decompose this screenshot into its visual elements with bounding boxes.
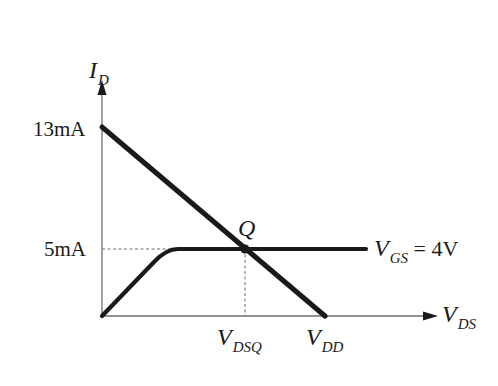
tick-vdd-symbol: V: [306, 324, 321, 350]
x-axis-subscript: DS: [458, 316, 476, 332]
q-point-marker: [241, 245, 250, 254]
tick-vdsq-symbol: V: [217, 324, 232, 350]
vgs-subscript: GS: [390, 250, 408, 266]
load-line: [102, 127, 325, 316]
tick-13mA: 13mA: [33, 119, 86, 140]
tick-vdsq-subscript: DSQ: [233, 339, 262, 355]
tick-vdd: VDD: [306, 325, 343, 349]
tick-vdsq: VDSQ: [217, 325, 262, 349]
y-axis-subscript: D: [98, 72, 109, 88]
vgs-curve: [102, 249, 366, 316]
vgs-curve-label: VGS = 4V: [374, 236, 458, 260]
y-axis-symbol: I: [89, 57, 97, 83]
q-point-label: Q: [238, 216, 255, 240]
x-axis-label: VDS: [442, 302, 476, 326]
x-axis-arrow-icon: [423, 312, 438, 321]
tick-5mA: 5mA: [44, 239, 86, 260]
vdd-marker: [323, 314, 328, 319]
vgs-symbol: V: [374, 235, 389, 261]
y-axis-label: ID: [89, 58, 109, 82]
tick-vdd-subscript: DD: [322, 339, 344, 355]
x-axis-symbol: V: [442, 301, 457, 327]
vgs-value: = 4V: [408, 236, 458, 261]
